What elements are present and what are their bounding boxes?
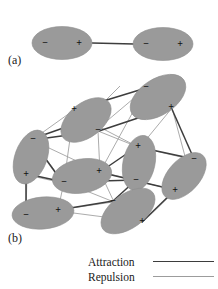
svg-text:−: − xyxy=(191,153,197,164)
svg-text:+: + xyxy=(76,37,82,48)
dipole-b5: − + xyxy=(50,154,115,198)
legend-label-repulsion: Repulsion xyxy=(88,271,150,283)
dipole-a1: − + xyxy=(32,27,92,60)
svg-text:+: + xyxy=(55,204,61,215)
dipole-b2: + − xyxy=(53,89,120,152)
svg-text:−: − xyxy=(42,37,48,48)
dipole-interaction-figure: .dip{fill:#9a9a9a;stroke:#8d8d8d;stroke-… xyxy=(0,0,218,289)
svg-text:−: − xyxy=(23,209,29,220)
svg-text:+: + xyxy=(168,101,174,112)
svg-text:−: − xyxy=(133,174,139,185)
svg-text:−: − xyxy=(143,81,149,92)
panel-label-b: (b) xyxy=(8,231,22,246)
svg-text:+: + xyxy=(71,103,77,114)
panel-a-group: − + − + xyxy=(32,27,193,61)
svg-text:−: − xyxy=(95,124,101,135)
dipole-b7: − + xyxy=(11,194,76,231)
svg-text:+: + xyxy=(96,165,102,176)
legend-swatch-repulsion-line xyxy=(153,276,214,277)
svg-text:+: + xyxy=(135,140,141,151)
legend-swatch-attraction-line xyxy=(153,261,214,262)
svg-text:−: − xyxy=(30,133,36,144)
svg-text:+: + xyxy=(172,184,178,195)
legend-item-attraction: Attraction xyxy=(88,254,214,269)
svg-text:+: + xyxy=(23,168,29,179)
legend: Attraction Repulsion xyxy=(88,254,214,284)
panel-label-a: (a) xyxy=(8,53,21,68)
dipole-a2: − + xyxy=(133,28,193,61)
bond-attraction xyxy=(92,43,134,44)
legend-label-attraction: Attraction xyxy=(88,256,150,268)
svg-text:+: + xyxy=(139,215,145,226)
legend-item-repulsion: Repulsion xyxy=(88,269,214,284)
svg-text:−: − xyxy=(110,195,116,206)
svg-text:−: − xyxy=(143,38,149,49)
svg-text:−: − xyxy=(61,176,67,187)
svg-text:+: + xyxy=(177,38,183,49)
